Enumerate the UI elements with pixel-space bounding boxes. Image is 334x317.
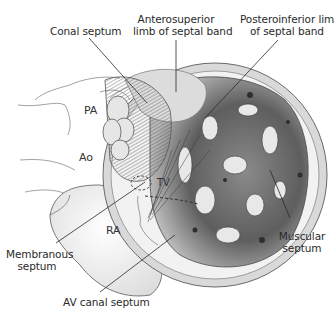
label-conal-septum: Conal septum [50,25,122,37]
label-av-canal-septum: AV canal septum [63,296,150,308]
label-anterosuperior-line2: limb of septal band [133,25,219,37]
anatomy-figure: Conal septum Anterosuperior limb of sept… [0,0,334,317]
label-muscular-line1: Muscular [276,230,328,242]
label-posteroinferior-limb: Posteroinferior limb of septal band [240,13,334,37]
label-muscular-septum: Muscular septum [276,230,328,254]
label-muscular-line2: septum [276,242,328,254]
label-posteroinferior-line1: Posteroinferior limb [240,13,334,25]
label-membranous-line2: septum [6,260,68,272]
label-ra: RA [106,225,121,237]
label-membranous-septum: Membranous septum [6,248,68,272]
label-ao: Ao [79,152,93,164]
label-posteroinferior-line2: of septal band [240,25,334,37]
label-pa: PA [84,105,97,117]
label-anterosuperior-limb: Anterosuperior limb of septal band [133,13,219,37]
label-membranous-line1: Membranous [6,248,68,260]
label-anterosuperior-line1: Anterosuperior [133,13,219,25]
label-tv: TV [157,177,170,189]
